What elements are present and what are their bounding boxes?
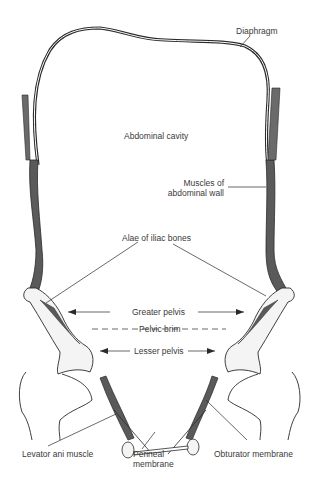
label-perineal-membrane: Perineal membrane xyxy=(133,449,174,469)
label-muscles-abdominal-wall: Muscles of abdominal wall xyxy=(166,178,224,198)
label-muscles-line2: abdominal wall xyxy=(166,188,224,198)
label-levator-ani: Levator ani muscle xyxy=(22,449,93,459)
label-perineal-line1: Perineal xyxy=(133,449,174,459)
right-levator-ani xyxy=(186,376,218,440)
label-alae-iliac-bones: Alae of iliac bones xyxy=(122,233,191,243)
label-diaphragm: Diaphragm xyxy=(236,26,278,36)
left-abdominal-wall xyxy=(28,160,43,296)
left-iliac-bone xyxy=(24,288,93,374)
label-muscles-line1: Muscles of xyxy=(166,178,224,188)
label-lesser-pelvis: Lesser pelvis xyxy=(134,346,184,356)
left-levator-ani xyxy=(100,376,134,440)
right-iliac-bone xyxy=(225,288,294,374)
label-perineal-line2: membrane xyxy=(133,459,174,469)
label-obturator-membrane: Obturator membrane xyxy=(214,449,293,459)
right-abdominal-wall xyxy=(266,160,288,295)
label-greater-pelvis: Greater pelvis xyxy=(132,307,185,317)
label-pelvic-brim: Pelvic brim xyxy=(139,324,181,334)
femur-outlines xyxy=(19,372,300,440)
diaphragm-and-wall xyxy=(34,28,268,165)
right-ischial-tuberosity xyxy=(187,439,199,455)
label-abdominal-cavity: Abdominal cavity xyxy=(124,131,188,141)
